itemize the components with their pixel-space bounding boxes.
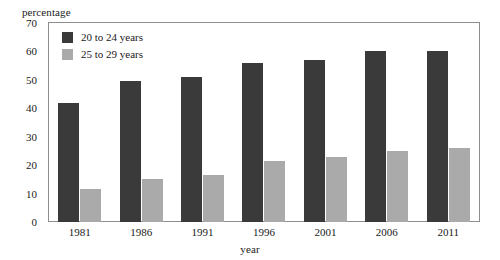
- bar: [58, 103, 79, 222]
- y-tick-label: 0: [32, 217, 38, 228]
- bar-chart: percentage 706050403020100 1981198619911…: [0, 0, 500, 260]
- x-tick-label: 1996: [253, 226, 275, 238]
- legend-label: 20 to 24 years: [81, 32, 143, 43]
- x-tick-label: 2011: [437, 226, 459, 238]
- y-tick-label: 50: [26, 74, 37, 85]
- legend-swatch-dark: [62, 32, 73, 43]
- y-tick-label: 70: [26, 18, 37, 29]
- chart-legend: 20 to 24 years25 to 29 years: [62, 31, 143, 65]
- bar: [387, 151, 408, 222]
- x-axis-title: year: [0, 243, 500, 255]
- bar-group: [295, 23, 356, 222]
- y-tick-label: 60: [26, 46, 37, 57]
- bar: [427, 51, 448, 222]
- legend-item: 20 to 24 years: [62, 31, 143, 44]
- x-tick-label: 2001: [314, 226, 336, 238]
- bar: [203, 175, 224, 222]
- bar: [365, 51, 386, 222]
- legend-swatch-light: [62, 49, 73, 60]
- x-tick-label: 1991: [192, 226, 214, 238]
- bar-group: [418, 23, 479, 222]
- x-axis-tick-labels: 1981198619911996200120062011: [49, 226, 479, 242]
- x-tick-label: 1986: [130, 226, 152, 238]
- x-tick-label: 2006: [376, 226, 398, 238]
- legend-label: 25 to 29 years: [81, 49, 143, 60]
- bar-group: [172, 23, 233, 222]
- y-tick-label: 40: [26, 103, 37, 114]
- bar: [326, 157, 347, 222]
- bar: [264, 161, 285, 222]
- bar: [142, 179, 163, 222]
- x-tick-label: 1981: [69, 226, 91, 238]
- bar-group: [233, 23, 294, 222]
- legend-item: 25 to 29 years: [62, 48, 143, 61]
- bar: [304, 60, 325, 222]
- bar: [80, 189, 101, 222]
- bar-group: [356, 23, 417, 222]
- bar: [120, 81, 141, 222]
- y-tick-label: 20: [26, 160, 37, 171]
- bar: [242, 63, 263, 222]
- bar: [181, 77, 202, 222]
- y-axis-tick-labels: 706050403020100: [0, 22, 44, 222]
- y-tick-label: 10: [26, 188, 37, 199]
- y-tick-label: 30: [26, 131, 37, 142]
- bar: [449, 148, 470, 222]
